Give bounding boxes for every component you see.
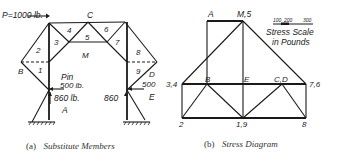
member-4-diag: [49, 23, 69, 42]
member-label-4: 4: [67, 26, 72, 35]
right-vertical-reaction: 860: [104, 93, 118, 103]
truss-diagram-canvas: P=1000 lb. C 4 6 5 3 7 2 M 8 B 1 9 D Pin…: [0, 0, 339, 164]
line-m-34: [182, 21, 243, 84]
caption-b: (b) Stress Diagram: [204, 133, 278, 150]
scale-title-line2: in Pounds: [272, 37, 311, 47]
point-label-76: 7,6: [309, 80, 321, 89]
point-label-a: A: [207, 9, 214, 19]
point-label-e: E: [244, 75, 250, 84]
point-label-b: B: [205, 75, 211, 84]
substitute-members-figure: P=1000 lb. C 4 6 5 3 7 2 M 8 B 1 9 D Pin…: [2, 10, 157, 152]
member-label-5: 5: [85, 33, 90, 42]
node-label-c: C: [87, 10, 94, 20]
point-label-19: 1,9: [236, 120, 248, 129]
point-label-2: 2: [178, 120, 184, 129]
load-label: P=1000 lb.: [2, 10, 43, 20]
line-cd-8: [282, 84, 306, 118]
right-support-brace: [127, 90, 145, 120]
line-cd-19: [243, 84, 282, 118]
scale-tick-300: 300: [303, 17, 312, 23]
member-2-outer: [21, 23, 49, 62]
member-label-1: 1: [38, 66, 42, 75]
member-1: [21, 62, 49, 90]
point-label-34: 3,4: [166, 80, 178, 89]
node-label-a: A: [61, 105, 68, 115]
node-label-e: E: [149, 92, 155, 102]
right-horizontal-reaction: 500: [142, 80, 156, 89]
stress-diagram-figure: 100 200 300 Stress Scale in Pounds A M,5…: [166, 9, 321, 150]
member-3-diag: [49, 42, 69, 62]
node-label-m: M: [82, 51, 89, 60]
point-label-cd: C,D: [274, 75, 288, 84]
stress-scale: 100 200 300 Stress Scale in Pounds: [266, 17, 314, 47]
member-label-9: 9: [136, 67, 141, 76]
member-label-8: 8: [136, 48, 141, 57]
member-label-7: 7: [115, 38, 120, 47]
point-label-m5: M,5: [237, 9, 251, 19]
member-label-3: 3: [54, 38, 59, 47]
member-8-outer: [125, 22, 157, 62]
member-label-2: 2: [35, 46, 41, 55]
member-label-6: 6: [104, 25, 109, 34]
caption-a: (a) Substitute Members: [26, 135, 115, 152]
left-horizontal-reaction: 500 lb.: [60, 81, 84, 90]
line-b-2: [182, 84, 207, 118]
load-arrowhead-icon: [46, 14, 50, 19]
node-label-b: B: [18, 67, 24, 76]
left-support-brace: [32, 90, 49, 122]
node-label-d: D: [149, 70, 155, 79]
line-b-19: [207, 84, 243, 118]
scale-title-line1: Stress Scale: [266, 27, 314, 37]
left-vertical-reaction: 860 lb.: [54, 93, 80, 103]
point-label-8: 8: [302, 120, 307, 129]
scale-tick-100: 100: [273, 17, 282, 23]
scale-tick-200: 200: [283, 17, 293, 23]
